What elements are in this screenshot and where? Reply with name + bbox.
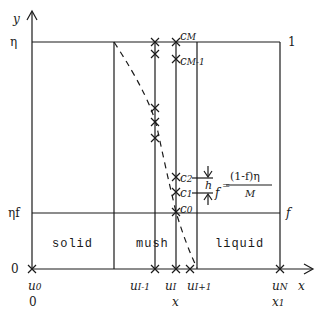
node-cM: cM <box>180 30 196 43</box>
node-uIm1: uI-1 <box>130 280 150 293</box>
node-cM-1: cM-1 <box>180 55 205 68</box>
right-tick-one: 1 <box>288 36 296 48</box>
node-c0: c0 <box>180 203 192 216</box>
node-uN: uN <box>272 280 288 293</box>
right-tick-f: f <box>286 207 290 219</box>
y-tick-eta-f: ηf <box>8 207 20 219</box>
y-tick-eta: η <box>10 36 17 48</box>
region-mush: mush <box>136 238 169 250</box>
y-tick-zero: 0 <box>11 263 19 275</box>
region-liquid: liquid <box>215 238 264 250</box>
formula-numerator: (1-f)η <box>230 171 260 183</box>
node-uN-value: x1 <box>272 296 285 309</box>
node-c2: c2 <box>180 172 192 185</box>
formula-f: f <box>215 187 219 199</box>
formula-denominator: M <box>245 188 255 200</box>
node-c1: c1 <box>180 187 192 200</box>
node-uI: uI <box>165 280 176 293</box>
formula-h: h <box>205 180 212 192</box>
node-u0: u0 <box>28 280 41 293</box>
node-uI-value: x <box>172 296 179 308</box>
y-axis-label: y <box>13 13 20 25</box>
node-uIp1: uI+1 <box>187 280 212 293</box>
phase-diagram <box>0 0 319 317</box>
node-u0-value: 0 <box>29 296 37 308</box>
x-axis-label: x <box>298 280 305 292</box>
region-solid: solid <box>52 238 93 250</box>
